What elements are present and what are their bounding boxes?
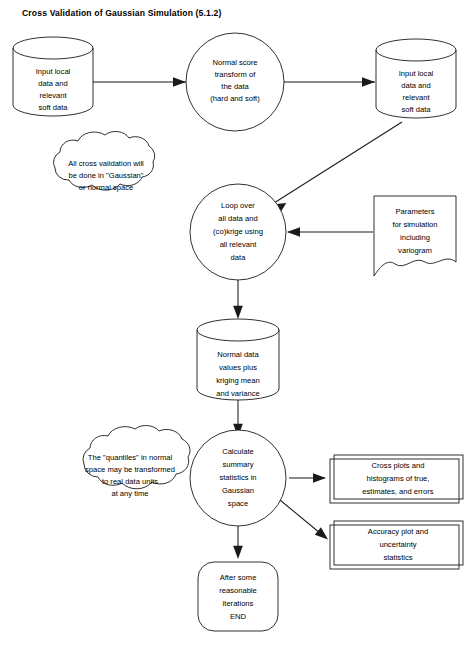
- node-loop-krige[interactable]: Loop over all data and (co)krige using a…: [190, 184, 286, 280]
- node-label-line: Input local: [399, 69, 434, 78]
- node-cross-plots-output[interactable]: Cross plots and histograms of true, esti…: [330, 455, 463, 503]
- node-label-line: statistics: [383, 553, 412, 562]
- node-label-line: be done in "Gaussian": [68, 171, 143, 180]
- node-label-line: uncertainty: [379, 540, 416, 549]
- node-label-line: at any time: [111, 489, 148, 498]
- node-label-line: or normal space: [79, 183, 133, 192]
- node-label-line: soft data: [401, 105, 431, 114]
- node-label-line: Gaussian: [222, 486, 254, 495]
- node-label-line: space: [228, 499, 248, 508]
- node-label-line: Accuracy plot and: [368, 527, 428, 536]
- node-label-line: data and: [38, 79, 68, 88]
- node-label-line: END: [230, 612, 247, 621]
- node-label-line: soft data: [38, 103, 68, 112]
- node-cloud-quantiles[interactable]: The "quantiles" in normal space may be t…: [83, 425, 190, 498]
- node-label-line: iterations: [223, 599, 254, 608]
- node-label-line: data: [231, 253, 247, 262]
- node-label-line: (co)krige using: [213, 227, 263, 236]
- node-label-line: (hard and soft): [210, 94, 260, 103]
- node-label-line: Cross plots and: [372, 461, 425, 470]
- edge-calculate-to-accuracy-plot: [280, 500, 328, 540]
- node-label-line: relevant: [402, 93, 430, 102]
- flowchart-diagram: Input local data and relevant soft data …: [0, 0, 468, 645]
- node-label-line: all relevant: [220, 240, 258, 249]
- edge-parameters-to-loop: [287, 227, 373, 237]
- node-input-data-left[interactable]: Input local data and relevant soft data: [13, 37, 93, 116]
- node-label-line: relevant: [39, 91, 67, 100]
- node-label-line: the data: [221, 82, 249, 91]
- node-calculate-summary-stats[interactable]: Calculate summary statistics in Gaussian…: [190, 430, 286, 526]
- edge-calculate-to-end: [233, 522, 243, 559]
- node-end[interactable]: After some reasonable iterations END: [198, 562, 278, 631]
- node-label-line: reasonable: [219, 586, 257, 595]
- node-label-line: estimates, and errors: [362, 487, 434, 496]
- node-label-line: transform of: [215, 70, 256, 79]
- node-label-line: histograms of true,: [367, 474, 430, 483]
- node-cloud-gaussian-space[interactable]: All cross validation will be done in "Ga…: [53, 131, 154, 192]
- node-label-line: Calculate: [222, 447, 254, 456]
- node-label-line: including: [400, 233, 430, 242]
- node-input-data-right[interactable]: Input local data and relevant soft data: [376, 39, 456, 118]
- node-normal-score-transform[interactable]: Normal score transform of the data (hard…: [186, 33, 284, 131]
- node-label-line: and variance: [216, 389, 259, 398]
- node-label-line: data and: [401, 81, 431, 90]
- edge-calculate-to-cross-plots: [289, 473, 326, 483]
- node-label-line: to real data units: [102, 477, 158, 486]
- node-label-line: Normal score: [212, 58, 257, 67]
- node-accuracy-plot-output[interactable]: Accuracy plot and uncertainty statistics: [330, 521, 463, 569]
- node-label-line: All cross validation will: [68, 159, 144, 168]
- node-label-line: The "quantiles" in normal: [88, 453, 173, 462]
- figure-caption: [22, 633, 446, 645]
- node-normal-data-values[interactable]: Normal data values plus kriging mean and…: [197, 319, 279, 400]
- node-label-line: space may be transformed: [85, 465, 175, 474]
- node-label-line: for simulation: [392, 220, 437, 229]
- node-label-line: values plus: [219, 363, 257, 372]
- node-label-line: kriging mean: [216, 376, 259, 385]
- edge-loop-to-normal-data: [233, 280, 243, 319]
- edge-transform-to-input-right: [284, 77, 375, 87]
- node-label-line: Normal data: [217, 350, 259, 359]
- node-label-line: Input local: [36, 67, 71, 76]
- node-label-line: statistics in: [219, 473, 256, 482]
- node-label-line: all data and: [218, 214, 257, 223]
- node-label-line: Loop over: [221, 201, 255, 210]
- edge-input-left-to-transform: [93, 77, 186, 87]
- node-label-line: After some: [220, 573, 257, 582]
- node-label-line: variogram: [398, 246, 432, 255]
- node-label-line: Parameters: [395, 207, 434, 216]
- node-label-line: summary: [222, 460, 253, 469]
- node-parameters-document[interactable]: Parameters for simulation including vari…: [374, 196, 456, 276]
